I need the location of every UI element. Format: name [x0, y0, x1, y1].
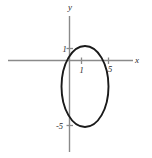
- math-figure: x y 1 1 5 -5: [0, 0, 152, 158]
- tick-label-x-5: 5: [108, 64, 112, 74]
- tick-label-x-1: 1: [79, 65, 83, 75]
- tick-label-y-neg5: -5: [56, 121, 63, 131]
- y-axis-label: y: [67, 2, 72, 12]
- x-axis-label: x: [134, 55, 139, 65]
- tick-label-y-1: 1: [62, 44, 66, 54]
- coordinate-plane-svg: x y 1 1 5 -5: [0, 0, 152, 158]
- ellipse-curve: [62, 46, 109, 127]
